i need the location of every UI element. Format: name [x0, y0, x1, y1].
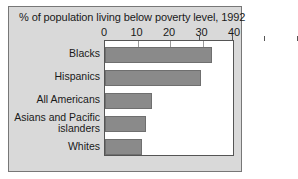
bar: [105, 47, 212, 63]
category-label: Hispanics: [9, 71, 100, 83]
category-labels: BlacksHispanicsAll AmericansAsians and P…: [9, 40, 102, 156]
category-label: Whites: [9, 141, 100, 153]
chart-panel: % of population living below poverty lev…: [8, 6, 242, 172]
category-label: All Americans: [9, 94, 100, 106]
bars-layer: [105, 41, 233, 155]
plot-area: [104, 40, 234, 156]
category-label: Asians and Pacific islanders: [9, 112, 100, 135]
bar: [105, 93, 152, 109]
category-label: Blacks: [9, 48, 100, 60]
chart-title: % of population living below poverty lev…: [19, 11, 235, 24]
poverty-bar-chart-figure: % of population living below poverty lev…: [0, 0, 250, 179]
bar: [105, 116, 146, 132]
bar: [105, 70, 201, 86]
bar: [105, 139, 142, 155]
